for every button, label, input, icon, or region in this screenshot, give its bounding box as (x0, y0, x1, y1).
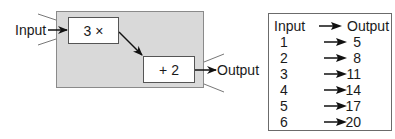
row-output: 20 (345, 114, 361, 130)
row-input: 3 (280, 66, 288, 82)
multiply-step-box: 3 × (68, 17, 119, 44)
row-input: 1 (280, 34, 288, 50)
table-row: 5 17 (269, 98, 393, 114)
add-step-box: + 2 (143, 56, 195, 83)
input-output-table: Input Output 1 5 2 8 3 11 4 14 5 17 (268, 13, 392, 131)
input-funnel-top (38, 14, 56, 20)
multiply-step-label: 3 × (84, 23, 104, 39)
table-row: 3 11 (269, 66, 393, 82)
row-output: 5 (353, 34, 361, 50)
function-machine-diagram: Input 3 × + 2 Output Input Output 1 5 2 … (0, 0, 395, 139)
row-output: 14 (345, 82, 361, 98)
table-header-input: Input (274, 18, 305, 34)
row-input: 6 (280, 114, 288, 130)
row-input: 4 (280, 82, 288, 98)
table-header-row: Input Output (269, 18, 393, 34)
row-input: 5 (280, 98, 288, 114)
output-funnel-top (204, 54, 224, 62)
right-arrow-icon (324, 70, 348, 78)
table-header-output: Output (347, 18, 389, 34)
table-row: 6 20 (269, 114, 393, 130)
right-arrow-icon (324, 54, 348, 62)
table-row: 2 8 (269, 50, 393, 66)
row-output: 17 (345, 98, 361, 114)
table-row: 4 14 (269, 82, 393, 98)
right-arrow-icon (324, 118, 348, 126)
table-row: 1 5 (269, 34, 393, 50)
machine-output-label: Output (217, 62, 259, 78)
right-arrow-icon (324, 38, 348, 46)
right-arrow-icon (324, 86, 348, 94)
row-input: 2 (280, 50, 288, 66)
row-output: 8 (353, 50, 361, 66)
right-arrow-icon (324, 102, 348, 110)
right-arrow-icon (319, 22, 343, 30)
row-output: 11 (346, 66, 361, 82)
input-funnel-bottom (38, 39, 56, 45)
machine-input-label: Input (15, 22, 46, 38)
add-step-label: + 2 (159, 62, 179, 78)
output-funnel-bottom (204, 84, 224, 92)
